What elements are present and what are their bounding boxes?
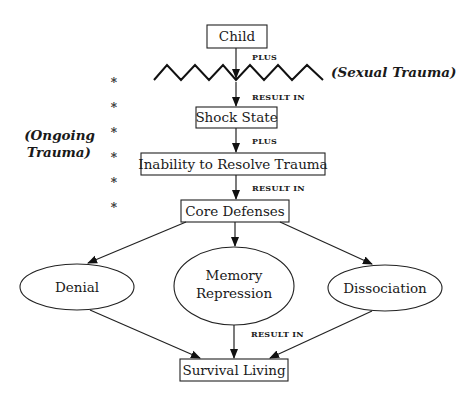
edge-label-result-in-2: RESULT IN [252,183,305,193]
asterisk-marker: * [111,126,118,140]
trauma-flow-diagram: Child PLUS (Sexual Trauma) RESULT IN Sho… [0,0,465,402]
arrow-core-to-denial [88,222,186,263]
node-child: Child [207,25,267,48]
asterisk-marker: * [111,76,118,90]
node-core-defenses: Core Defenses [181,200,289,222]
asterisk-marker: * [111,101,118,115]
node-shock-state-label: Shock State [195,109,277,125]
asterisk-marker: * [111,151,118,165]
node-dissociation-label: Dissociation [343,280,427,296]
node-denial-label: Denial [55,279,99,295]
node-core-defenses-label: Core Defenses [185,203,285,219]
edge-label-plus-2: PLUS [252,136,277,146]
edge-label-result-in-3: RESULT IN [251,329,304,339]
arrow-core-to-dissociation [280,222,372,264]
node-memory-repression: Memory Repression [174,247,294,325]
node-child-label: Child [219,28,256,44]
node-survival-living: Survival Living [180,359,288,381]
asterisk-marker: * [111,201,118,215]
arrow-denial-to-survival [90,310,200,358]
asterisk-marker: * [111,176,118,190]
node-denial: Denial [20,264,134,310]
ongoing-trauma-label-line2: Trauma) [27,144,91,160]
node-inability: Inability to Resolve Trauma [138,153,327,175]
node-survival-living-label: Survival Living [182,362,286,378]
node-dissociation: Dissociation [328,265,442,311]
node-memory-repression-label-line1: Memory [206,267,263,283]
sexual-trauma-label: (Sexual Trauma) [331,64,456,80]
edge-label-result-in-1: RESULT IN [252,92,305,102]
ongoing-trauma-label-line1: (Ongoing [24,127,95,143]
sexual-trauma-zigzag [154,65,323,80]
node-inability-label: Inability to Resolve Trauma [138,156,327,172]
node-shock-state: Shock State [195,107,277,128]
ongoing-trauma-markers: * * * * * * [111,76,118,215]
node-memory-repression-label-line2: Repression [196,285,273,301]
edge-label-plus-1: PLUS [252,52,277,62]
